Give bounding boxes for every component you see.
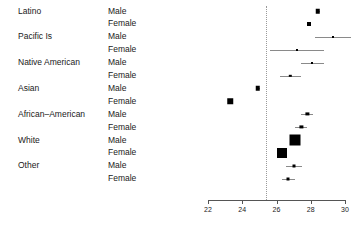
sex-label: Male — [108, 109, 126, 119]
sex-label: Female — [108, 44, 136, 54]
x-axis-tick-label: 22 — [204, 206, 212, 213]
sex-label: Female — [108, 147, 136, 157]
reference-line — [266, 6, 267, 200]
x-axis-tick — [345, 200, 346, 204]
estimate-marker — [228, 99, 234, 105]
sex-label: Male — [108, 160, 126, 170]
group-label: Pacific Is — [18, 31, 52, 41]
estimate-marker — [287, 177, 290, 180]
sex-label: Female — [108, 96, 136, 106]
estimate-marker — [289, 74, 291, 76]
sex-label: Male — [108, 31, 126, 41]
estimate-marker — [332, 36, 334, 38]
group-label: Other — [18, 160, 39, 170]
estimate-marker — [315, 9, 320, 14]
sex-label: Female — [108, 122, 136, 132]
group-label: Latino — [18, 6, 41, 16]
x-axis-tick — [242, 200, 243, 204]
x-axis-tick-label: 30 — [341, 206, 349, 213]
sex-label: Male — [108, 135, 126, 145]
x-axis-tick-label: 28 — [307, 206, 315, 213]
sex-label: Female — [108, 18, 136, 28]
estimate-marker — [311, 62, 313, 64]
sex-label: Male — [108, 83, 126, 93]
estimate-marker — [292, 164, 295, 167]
group-label: Asian — [18, 83, 39, 93]
group-label: White — [18, 135, 40, 145]
sex-label: Male — [108, 57, 126, 67]
estimate-marker — [300, 126, 303, 129]
estimate-marker — [277, 148, 287, 158]
estimate-marker — [255, 86, 260, 91]
sex-label: Female — [108, 173, 136, 183]
x-axis-tick-label: 26 — [273, 206, 281, 213]
estimate-marker — [307, 22, 311, 26]
forest-plot: LatinoPacific IsNative AmericanAsianAfri… — [0, 0, 352, 226]
x-axis-tick — [277, 200, 278, 204]
estimate-marker — [290, 135, 301, 146]
group-label: African–American — [18, 109, 85, 119]
estimate-marker — [306, 113, 309, 116]
sex-label: Male — [108, 6, 126, 16]
x-axis-tick — [311, 200, 312, 204]
group-label: Native American — [18, 57, 80, 67]
estimate-marker — [296, 49, 298, 51]
sex-label: Female — [108, 70, 136, 80]
x-axis-tick-label: 24 — [238, 206, 246, 213]
x-axis-tick — [208, 200, 209, 204]
